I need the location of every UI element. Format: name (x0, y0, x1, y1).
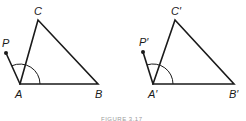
label-a-prime: A′ (147, 88, 158, 100)
label-a: A (14, 88, 22, 100)
label-c-prime: C′ (171, 5, 182, 17)
point-p-dot (4, 51, 8, 55)
label-b: B (95, 88, 102, 100)
figure-canvas: P C A B P′ C′ A′ B′ FIGURE 3.17 (0, 0, 246, 121)
triangle-abc: P C A B (2, 5, 102, 100)
point-p-prime-dot (141, 50, 145, 54)
segment-ap-prime (143, 52, 153, 84)
figure-caption: FIGURE 3.17 (101, 116, 143, 121)
label-p-prime: P′ (139, 36, 149, 48)
label-b-prime: B′ (229, 88, 239, 100)
segment-ap (6, 53, 20, 84)
triangle-abc-edges (20, 20, 98, 84)
triangle-abc-prime: P′ C′ A′ B′ (139, 5, 239, 100)
label-c: C (34, 5, 42, 17)
angle-arc-pab-prime (147, 64, 173, 84)
triangle-abc-prime-edges (153, 20, 234, 84)
label-p: P (2, 37, 10, 49)
